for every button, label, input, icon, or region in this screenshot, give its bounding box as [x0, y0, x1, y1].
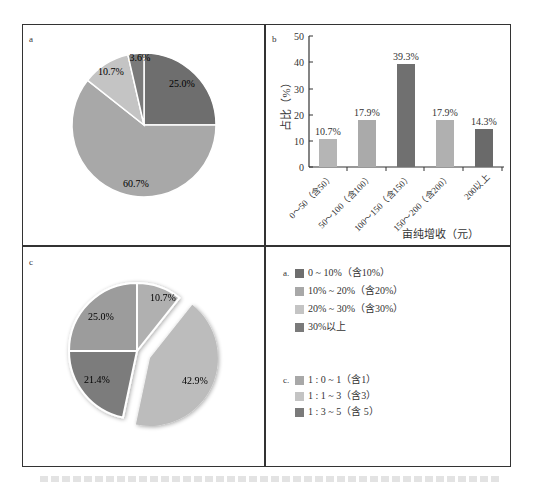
bar-chart-b: 0 10 20 30 40 50 占比（%） 10.7% 17.9% 39.3%…: [266, 26, 511, 244]
legend-item: c. 1 : 0 ~ 1（含1）: [283, 372, 379, 388]
y-tick: 10: [294, 136, 304, 147]
slice-a-0: [144, 53, 216, 125]
legend-item: 20% ~ 30%（含30%）: [283, 300, 403, 318]
pie-chart-a: 25.0% 60.7% 10.7% 3.6%: [60, 45, 230, 205]
bar-1: [358, 120, 376, 167]
legend-label: 0 ~ 10%（含10%）: [308, 264, 390, 282]
bar-value-label: 17.9%: [354, 107, 380, 118]
legend-swatch: [295, 408, 304, 417]
legend-item: 1 : 1 ~ 3（含3）: [283, 388, 379, 404]
bar-4: [475, 129, 493, 167]
slice-label: 21.4%: [84, 374, 110, 385]
bar-value-label: 17.9%: [432, 107, 458, 118]
bar-value-label: 39.3%: [393, 51, 419, 62]
y-tick: 50: [294, 31, 304, 42]
legend-label: 30%以上: [308, 318, 346, 336]
legend-a: a. 0 ~ 10%（含10%） 10% ~ 20%（含20%） 20% ~ 3…: [283, 264, 403, 336]
legend-label: 1 : 3 ~ 5（含 5）: [308, 404, 379, 420]
legend-item: a. 0 ~ 10%（含10%）: [283, 264, 403, 282]
legend-label: 10% ~ 20%（含20%）: [308, 282, 403, 300]
slice-label: 25.0%: [88, 311, 114, 322]
y-tick: 0: [299, 162, 304, 173]
legend-swatch: [295, 269, 304, 278]
x-tick-label: 200以上: [462, 172, 491, 201]
legend-item: 30%以上: [283, 318, 403, 336]
legend-item: 1 : 3 ~ 5（含 5）: [283, 404, 379, 420]
legend-label: 20% ~ 30%（含30%）: [308, 300, 403, 318]
legend-swatch: [295, 305, 304, 314]
y-tick: 20: [294, 110, 304, 121]
legend-swatch: [295, 376, 304, 385]
legend-swatch: [295, 392, 304, 401]
figure-caption-cropped: [40, 476, 500, 482]
legend-swatch: [295, 287, 304, 296]
legend-tag: a.: [283, 264, 295, 282]
slice-label: 60.7%: [123, 178, 149, 189]
slice-label: 25.0%: [169, 78, 195, 89]
bar-0: [319, 139, 337, 167]
legend-tag: c.: [283, 372, 295, 388]
legend-swatch: [295, 323, 304, 332]
legend-label: 1 : 1 ~ 3（含3）: [308, 388, 376, 404]
slice-label: 3.6%: [130, 52, 151, 63]
x-axis-label: 亩纯增收（元）: [402, 227, 479, 240]
bar-value-label: 10.7%: [315, 126, 341, 137]
legend-item: 10% ~ 20%（含20%）: [283, 282, 403, 300]
y-axis-label: 占比（%）: [279, 77, 292, 130]
y-tick: 40: [294, 57, 304, 68]
slice-label: 10.7%: [98, 66, 124, 77]
slice-label: 42.9%: [182, 375, 208, 386]
bar-2: [397, 64, 415, 167]
bar-value-label: 14.3%: [471, 116, 497, 127]
bar-3: [436, 120, 454, 167]
legend-label: 1 : 0 ~ 1（含1）: [308, 372, 376, 388]
legend-c: c. 1 : 0 ~ 1（含1） 1 : 1 ~ 3（含3） 1 : 3 ~ 5…: [283, 372, 379, 420]
panel-c-label: c: [29, 257, 33, 267]
slice-label: 10.7%: [150, 292, 176, 303]
panel-a-label: a: [29, 34, 33, 44]
row-divider: [22, 245, 511, 247]
y-tick: 30: [294, 84, 304, 95]
pie-chart-c: 10.7% 42.9% 21.4% 25.0%: [55, 270, 235, 440]
